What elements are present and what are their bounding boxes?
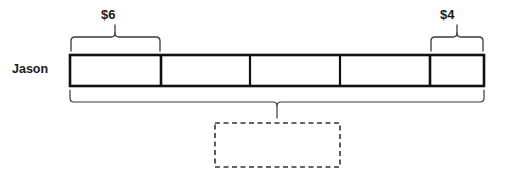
brace-four-path <box>431 33 483 51</box>
brace-six <box>71 25 160 51</box>
tape-diagram-canvas: Jason $6 $4 <box>0 0 505 178</box>
answer-box-outline[interactable] <box>215 123 340 167</box>
brace-four <box>431 25 483 51</box>
answer-box[interactable] <box>215 123 340 167</box>
brace-total-path <box>70 90 484 106</box>
row-label-jason: Jason <box>12 63 48 76</box>
amount-label-six: $6 <box>101 8 115 21</box>
amount-label-four: $4 <box>440 8 454 21</box>
tape-bar <box>70 55 484 86</box>
brace-six-path <box>71 33 160 51</box>
diagram-vector-layer <box>0 0 505 178</box>
brace-total <box>70 90 484 118</box>
tape-bar-outline <box>70 55 484 86</box>
